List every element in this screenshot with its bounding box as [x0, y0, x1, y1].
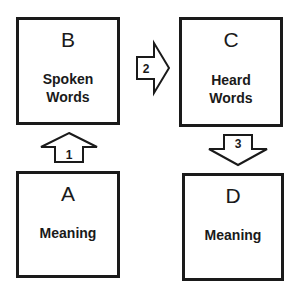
- box-b-spoken-words: B Spoken Words: [16, 17, 120, 125]
- box-a-letter: A: [19, 182, 117, 206]
- box-d-label: Meaning: [185, 226, 281, 244]
- arrow-3-down-icon: 3: [208, 134, 268, 166]
- arrow-2-label: 2: [143, 62, 150, 76]
- box-b-label-line1: Spoken: [19, 70, 117, 88]
- box-d-letter: D: [185, 184, 281, 208]
- arrow-2-right-icon: 2: [136, 42, 170, 94]
- box-c-heard-words: C Heard Words: [179, 17, 283, 127]
- arrow-1-up-icon: 1: [40, 132, 98, 164]
- arrow-3-label: 3: [235, 137, 242, 151]
- arrow-1-label: 1: [66, 148, 73, 162]
- box-b-label-line2: Words: [19, 88, 117, 106]
- box-c-label-line1: Heard: [182, 71, 280, 89]
- box-b-letter: B: [19, 28, 117, 52]
- box-c-letter: C: [182, 28, 280, 52]
- box-a-label: Meaning: [19, 224, 117, 242]
- box-a-meaning: A Meaning: [16, 171, 120, 278]
- box-c-label-line2: Words: [182, 89, 280, 107]
- box-d-meaning: D Meaning: [182, 173, 284, 281]
